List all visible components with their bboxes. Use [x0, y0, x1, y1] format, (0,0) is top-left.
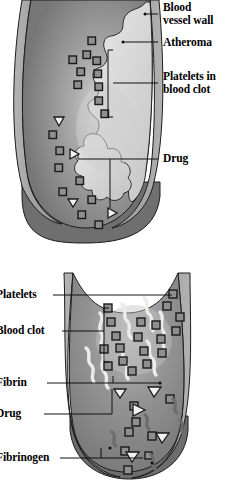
- figure-canvas: Blood vessel wall Atheroma Platelets in …: [0, 0, 225, 490]
- label-fibrin: Fibrin: [0, 376, 27, 389]
- label-blood-vessel-wall: Blood vessel wall: [163, 1, 213, 26]
- leader-dot-atheroma: [122, 41, 125, 44]
- leader-dot-fibrin: [158, 381, 161, 384]
- label-drug-top: Drug: [163, 152, 188, 165]
- label-drug-bottom: Drug: [0, 407, 21, 420]
- label-atheroma: Atheroma: [163, 36, 212, 49]
- label-platelets: Platelets: [0, 288, 37, 301]
- label-platelets-in-blood-clot: Platelets in blood clot: [163, 70, 216, 95]
- panel-top-vessel: [14, 0, 163, 243]
- label-fibrinogen: Fibrinogen: [0, 451, 49, 464]
- leader-dot-fibrinogen-b: [150, 461, 153, 464]
- label-blood-clot: Blood clot: [0, 324, 45, 337]
- leader-dot-wall: [144, 13, 147, 16]
- panel-bottom-vessel: [64, 273, 191, 479]
- leader-dot-fibrinogen-a: [108, 446, 111, 449]
